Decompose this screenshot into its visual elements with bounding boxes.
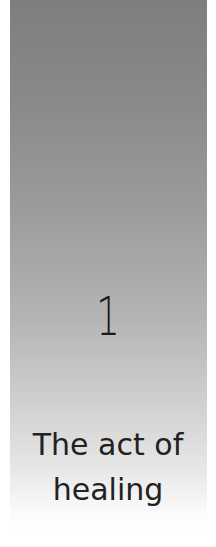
chapter-number: 1	[32, 290, 183, 344]
chapter-title-line-2: healing	[0, 467, 216, 512]
chapter-title-line-1: The act of	[0, 422, 216, 467]
chapter-title: The act of healing	[0, 422, 216, 512]
